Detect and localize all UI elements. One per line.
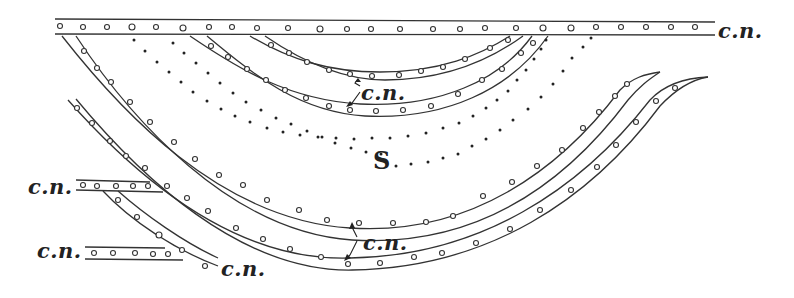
label-cn-left-lower: c.n.: [37, 240, 82, 261]
inner-u-canal: [250, 36, 523, 80]
top-canal: [55, 19, 715, 35]
label-region-s: S: [373, 149, 390, 173]
label-cn-inner-arrow: c.n.: [361, 82, 406, 103]
label-cn-lower-arrow: c.n.: [363, 232, 408, 253]
label-cn-left-upper: c.n.: [28, 176, 73, 197]
dots-inner: [133, 39, 548, 141]
label-cn-top-right: c.n.: [718, 20, 763, 41]
outer-canal-upper: [62, 36, 660, 241]
label-cn-bottom-branch: c.n.: [221, 258, 266, 279]
branch-canal: [103, 191, 218, 269]
top-canal-pores: [58, 24, 698, 33]
left-canal-lower: [85, 247, 183, 260]
left-canal-upper: [76, 180, 163, 192]
